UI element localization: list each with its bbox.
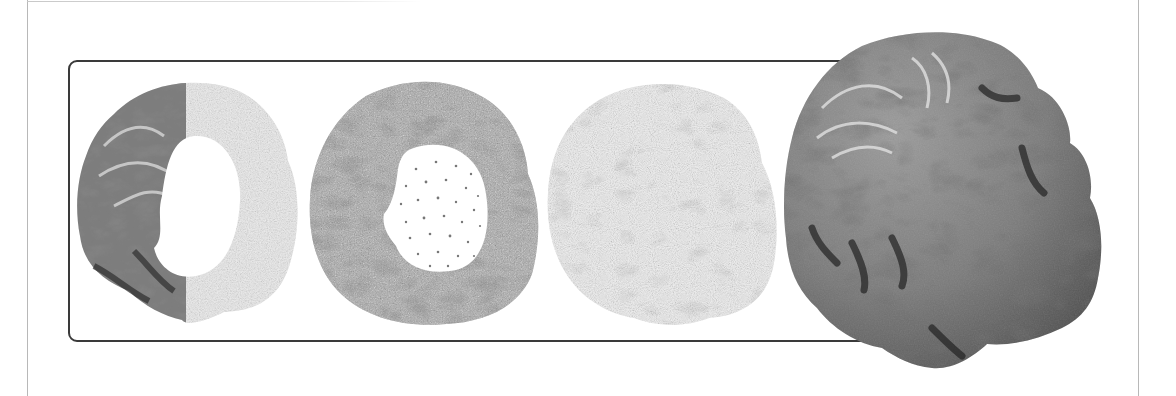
page-border-right (1138, 0, 1139, 396)
brain-dense-stipple-icon (306, 74, 542, 328)
brain-panel-2 (306, 74, 542, 328)
brain-panel-1 (74, 76, 306, 328)
page-border-left (27, 0, 28, 396)
brain-shaded-surface-icon (782, 28, 1104, 372)
brain-light-stipple-icon (544, 78, 780, 326)
brain-panel-4 (782, 28, 1104, 372)
brain-half-shaded-half-stippled-icon (74, 76, 306, 328)
brain-panel-3 (544, 78, 780, 326)
page-border-top (27, 1, 422, 2)
